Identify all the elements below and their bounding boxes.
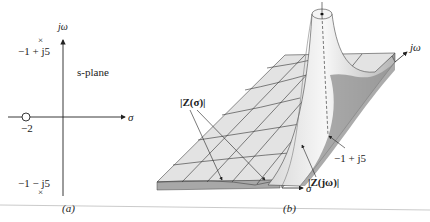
plane-front-edge bbox=[157, 180, 280, 190]
s-plane-label: s-plane bbox=[77, 66, 109, 78]
panel-a-s-plane bbox=[8, 40, 125, 196]
b-jw-axis bbox=[395, 52, 407, 62]
pole-upper-marker: × bbox=[38, 35, 43, 45]
b-pole-label: −1 + j5 bbox=[334, 152, 366, 164]
caption-b: (b) bbox=[283, 202, 296, 214]
pole-lower-marker: × bbox=[38, 187, 43, 197]
pole-lower-label: −1 − j5 bbox=[18, 177, 50, 189]
pole-upper-label: −1 + j5 bbox=[18, 45, 50, 57]
z-jw-label: |Z(jω)| bbox=[308, 176, 339, 188]
z-sigma-label: |Z(σ)| bbox=[180, 96, 206, 108]
zero-marker bbox=[22, 113, 30, 121]
figure bbox=[0, 0, 430, 222]
b-sigma-label: σ bbox=[306, 182, 311, 194]
zero-label: −2 bbox=[21, 122, 33, 134]
b-jw-label: jω bbox=[410, 41, 421, 53]
caption-a: (a) bbox=[62, 202, 75, 214]
a-jw-label: jω bbox=[58, 21, 68, 32]
a-sigma-label: σ bbox=[128, 111, 133, 123]
